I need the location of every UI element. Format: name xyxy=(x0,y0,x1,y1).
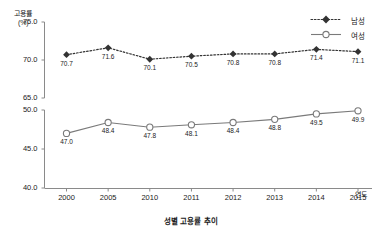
data-point-marker xyxy=(355,48,362,55)
legend xyxy=(311,16,341,38)
data-point-marker xyxy=(105,119,111,125)
data-point-label: 70.5 xyxy=(176,61,206,68)
y-axis-tick-label: 50.0 xyxy=(12,105,38,114)
x-axis-tick-label: 2011 xyxy=(171,193,211,202)
x-axis-tick-label: 2000 xyxy=(47,193,87,202)
data-point-label: 70.8 xyxy=(218,59,248,66)
x-axis-tick-label: 2013 xyxy=(255,193,295,202)
data-point-marker xyxy=(146,56,153,63)
data-point-label: 70.1 xyxy=(135,64,165,71)
x-axis-tick-label: 2010 xyxy=(130,193,170,202)
data-point-marker xyxy=(313,46,320,53)
data-point-marker xyxy=(63,130,69,136)
x-axis-tick-label: 2005 xyxy=(88,193,128,202)
data-point-label: 71.1 xyxy=(343,57,373,64)
x-axis-tick-label: 2014 xyxy=(296,193,336,202)
y-axis-tick-label: 75.0 xyxy=(12,17,38,26)
data-point-label: 48.4 xyxy=(93,127,123,134)
data-point-label: 48.4 xyxy=(218,127,248,134)
chart-container: 고용률 (%) 연도 75.070.065.050.045.040.020002… xyxy=(0,0,382,228)
data-point-label: 47.0 xyxy=(52,138,82,145)
data-point-label: 47.8 xyxy=(135,132,165,139)
data-point-label: 71.6 xyxy=(93,53,123,60)
y-axis-tick-label: 65.0 xyxy=(12,93,38,102)
data-point-marker xyxy=(63,51,70,58)
diamond-marker-icon xyxy=(322,16,330,24)
data-point-label: 49.9 xyxy=(343,116,373,123)
y-axis-tick-label: 40.0 xyxy=(12,183,38,192)
x-axis-tick-label: 2015 xyxy=(338,193,378,202)
chart-caption: 성별 고용률 추이 xyxy=(0,215,382,226)
legend-label-male: 남성 xyxy=(351,15,365,26)
legend-label-female: 여성 xyxy=(351,30,365,41)
data-point-marker xyxy=(188,53,195,60)
data-point-marker xyxy=(272,116,278,122)
data-point-marker xyxy=(355,108,361,114)
data-point-marker xyxy=(313,111,319,117)
data-point-marker xyxy=(147,124,153,130)
data-point-label: 49.5 xyxy=(301,119,331,126)
data-point-marker xyxy=(230,119,236,125)
data-point-label: 71.4 xyxy=(301,54,331,61)
x-axis-tick-label: 2012 xyxy=(213,193,253,202)
data-point-marker xyxy=(271,51,278,58)
circle-marker-icon xyxy=(323,31,329,37)
data-point-label: 48.1 xyxy=(176,130,206,137)
data-point-marker xyxy=(105,44,112,51)
data-point-label: 70.7 xyxy=(52,60,82,67)
data-point-label: 70.8 xyxy=(260,59,290,66)
data-point-marker xyxy=(188,122,194,128)
data-point-label: 48.8 xyxy=(260,124,290,131)
y-axis-tick-label: 70.0 xyxy=(12,55,38,64)
y-axis-tick-label: 45.0 xyxy=(12,144,38,153)
data-point-marker xyxy=(230,51,237,58)
